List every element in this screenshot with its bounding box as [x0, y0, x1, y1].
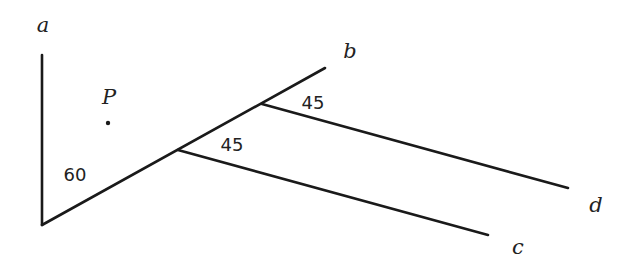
label-d: d: [589, 193, 602, 217]
line-c: [178, 150, 488, 235]
angle-label-60: 60: [64, 164, 87, 185]
label-b: b: [343, 39, 356, 63]
angle-label-45-upper: 45: [302, 92, 325, 113]
label-a: a: [37, 13, 50, 37]
angle-label-45-lower: 45: [221, 134, 244, 155]
line-d: [262, 104, 568, 188]
geometry-diagram: a b c d P 60 45 45: [0, 0, 632, 265]
label-c: c: [512, 235, 524, 259]
label-p: P: [101, 85, 117, 109]
line-b: [42, 68, 325, 225]
point-p: [106, 121, 110, 125]
